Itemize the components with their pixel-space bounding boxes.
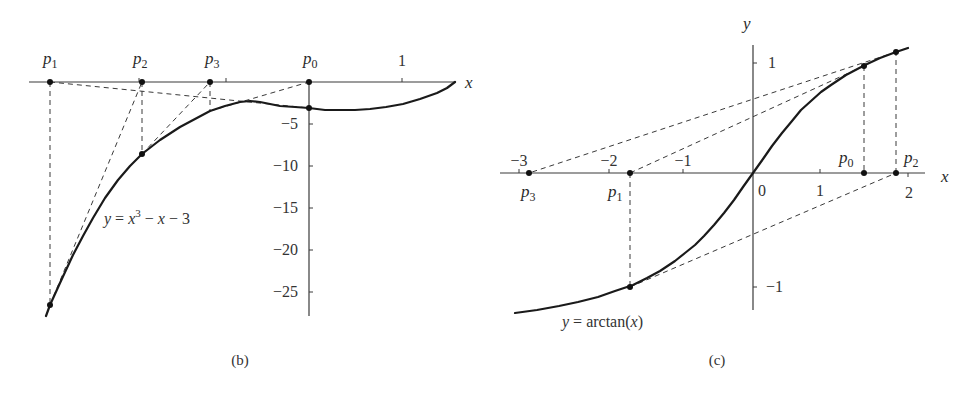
x-tick-label: −3 (510, 152, 527, 169)
y-tick-label: 1 (768, 54, 776, 71)
y-tick-label: −1 (766, 278, 783, 295)
function-label-cubic: y = x3 − x − 3 (102, 207, 190, 228)
cubic-curve (46, 82, 455, 316)
x-tick-label: 1 (398, 52, 406, 69)
point-label-p2: p2 (903, 148, 919, 170)
y-tick-label: −25 (273, 283, 298, 300)
x-axis-label: x (940, 167, 949, 186)
newton-construction-lines (529, 52, 896, 287)
arctan-curve (515, 48, 908, 313)
y-axis-label: y (741, 14, 751, 33)
panel-b: p1 p2 p3 p0 1 x −5 −10 −15 −20 −25 y = x… (29, 49, 473, 369)
point-label-p1: p1 (607, 182, 623, 204)
newton-construction-lines (50, 82, 309, 305)
point-label-p0: p0 (838, 148, 854, 170)
y-tick-label: −10 (273, 157, 298, 174)
point-label-p2: p2 (132, 49, 148, 71)
point-label-p3: p3 (520, 182, 536, 204)
iterate-points (526, 49, 899, 290)
y-tick-label: −15 (273, 199, 298, 216)
panel-c: −3 −2 −1 0 1 2 1 −1 x y p3 p1 p0 p2 y = … (500, 14, 949, 369)
point-label-p1: p1 (42, 49, 58, 71)
x-axis-label: x (464, 73, 473, 92)
function-label-arctan: y = arctan(x) (560, 313, 643, 331)
iterate-points (47, 79, 312, 308)
x-tick-label: −2 (600, 152, 617, 169)
x-tick-label: 0 (758, 182, 766, 199)
panel-caption-c: (c) (709, 352, 726, 369)
x-tick-label: −1 (674, 152, 691, 169)
figure: p1 p2 p3 p0 1 x −5 −10 −15 −20 −25 y = x… (0, 0, 978, 394)
y-tick-label: −20 (273, 241, 298, 258)
panel-caption-b: (b) (231, 352, 249, 369)
point-label-p3: p3 (204, 49, 220, 71)
y-tick-label: −5 (281, 115, 298, 132)
x-tick-label: 2 (905, 184, 913, 201)
x-tick-label: 1 (816, 182, 824, 199)
point-label-p0: p0 (302, 49, 318, 71)
